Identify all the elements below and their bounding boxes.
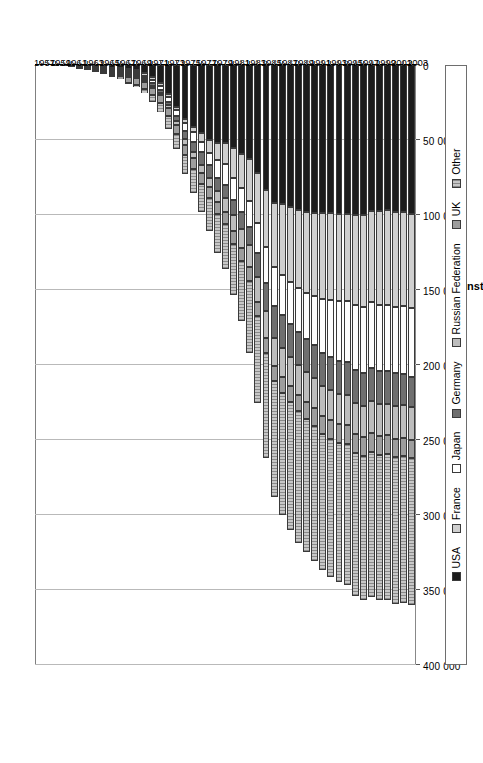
bar-segment-germany: [157, 90, 164, 93]
bar-1977: [198, 65, 205, 212]
category-tick: [47, 61, 48, 65]
bar-segment-russian-federation: [125, 75, 132, 77]
value-tick: [416, 664, 420, 665]
bar-segment-uk: [246, 268, 253, 282]
bar-segment-france: [230, 148, 237, 178]
legend-item-russian-federation[interactable]: Russian Federation: [450, 243, 462, 347]
bar-segment-usa: [190, 65, 197, 127]
legend-item-france[interactable]: France: [450, 487, 462, 533]
legend-item-usa[interactable]: USA: [450, 547, 462, 582]
bar-segment-russian-federation: [117, 74, 124, 76]
bar-segment-japan: [173, 110, 180, 116]
bar-segment-japan: [165, 97, 172, 102]
bar-segment-france: [238, 154, 245, 189]
bar-segment-japan: [141, 76, 148, 79]
bar-segment-japan: [311, 296, 318, 346]
bar-segment-japan: [182, 123, 189, 131]
chart-legend: USAFranceJapanGermanyRussian FederationU…: [445, 65, 467, 665]
bar-segment-russian-federation: [100, 73, 107, 74]
bar-segment-other: [214, 214, 221, 253]
legend-item-uk[interactable]: UK: [450, 202, 462, 230]
legend-item-germany[interactable]: Germany: [450, 361, 462, 417]
bar-segment-usa: [182, 65, 189, 119]
bar-segment-france: [149, 77, 156, 80]
bar-segment-russian-federation: [408, 407, 415, 440]
bar-segment-germany: [222, 185, 229, 198]
bar-segment-usa: [336, 65, 343, 214]
gridline: [35, 364, 416, 365]
bar-segment-russian-federation: [384, 404, 391, 436]
bar-segment-france: [190, 127, 197, 133]
legend-item-other[interactable]: Other: [450, 149, 462, 188]
bar-segment-france: [384, 211, 391, 306]
legend-label: France: [450, 487, 462, 520]
bar-segment-other: [254, 316, 261, 403]
bar-segment-germany: [344, 362, 351, 395]
bar-segment-germany: [352, 370, 359, 403]
bar-segment-russian-federation: [190, 152, 197, 158]
bar-segment-russian-federation: [336, 394, 343, 424]
bar-segment-uk: [263, 338, 270, 353]
bar-segment-france: [360, 215, 367, 307]
chart-figure: 050 000100 000150 000200 000250 000300 0…: [0, 0, 483, 763]
bar-segment-russian-federation: [263, 311, 270, 338]
bar-segment-russian-federation: [206, 178, 213, 187]
bar-segment-other: [173, 134, 180, 149]
bar-segment-japan: [271, 268, 278, 307]
bar-segment-uk: [214, 202, 221, 214]
bar-segment-japan: [287, 283, 294, 325]
category-tick: [371, 61, 372, 65]
bar-segment-uk: [109, 76, 116, 78]
value-tick: [416, 139, 420, 140]
bar-segment-france: [303, 212, 310, 293]
bar-segment-russian-federation: [238, 229, 245, 249]
bar-segment-other: [149, 95, 156, 102]
bar-1991: [311, 65, 318, 561]
bar-segment-uk: [344, 425, 351, 444]
gridline: [35, 439, 416, 440]
bar-segment-russian-federation: [368, 401, 375, 433]
bar-segment-usa: [303, 65, 310, 212]
bar-segment-japan: [279, 275, 286, 316]
bar-segment-usa: [238, 65, 245, 154]
bar-segment-france: [336, 214, 343, 301]
bar-segment-germany: [214, 178, 221, 191]
category-tick: [79, 61, 80, 65]
bar-2000: [384, 65, 391, 600]
category-tick: [176, 61, 177, 65]
bar-segment-uk: [295, 395, 302, 412]
category-tick: [209, 61, 210, 65]
bar-segment-usa: [319, 65, 326, 214]
bar-segment-japan: [92, 69, 99, 71]
category-tick: [387, 61, 388, 65]
bar-segment-russian-federation: [392, 406, 399, 439]
category-tick: [225, 61, 226, 65]
bar-1978: [206, 65, 213, 231]
bar-segment-japan: [319, 299, 326, 353]
value-tick: [416, 439, 420, 440]
bar-segment-usa: [214, 65, 221, 143]
bar-segment-france: [133, 70, 140, 72]
bar-segment-france: [117, 68, 124, 70]
bar-segment-uk: [125, 77, 132, 83]
legend-item-japan[interactable]: Japan: [450, 432, 462, 474]
bar-segment-japan: [254, 223, 261, 253]
bar-1999: [376, 65, 383, 600]
bar-segment-japan: [230, 178, 237, 201]
bar-segment-france: [400, 212, 407, 307]
bar-segment-usa: [344, 65, 351, 214]
value-tick: [416, 214, 420, 215]
bar-segment-france: [392, 212, 399, 307]
bar-segment-other: [400, 457, 407, 604]
bar-segment-other: [303, 419, 310, 553]
bar-segment-uk: [133, 78, 140, 84]
rotated-figure-wrapper: 050 000100 000150 000200 000250 000300 0…: [0, 0, 483, 763]
bar-segment-germany: [165, 102, 172, 105]
bar-segment-france: [198, 133, 205, 142]
bar-segment-germany: [368, 368, 375, 401]
bar-segment-germany: [198, 152, 205, 165]
bar-segment-japan: [408, 308, 415, 377]
bar-segment-other: [230, 244, 237, 295]
bar-segment-germany: [295, 332, 302, 365]
bar-segment-france: [214, 143, 221, 160]
